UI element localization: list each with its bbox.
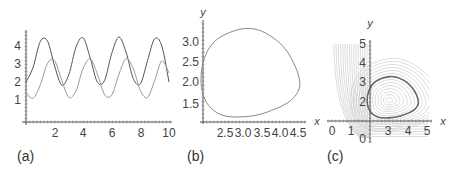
b-y-label: y [199, 6, 207, 18]
b-xtick: 4.5 [290, 126, 307, 140]
c-x-label-right: x [439, 115, 446, 127]
c-y-label: y [366, 17, 374, 29]
b-xtick: 2.5 [217, 126, 234, 140]
b-limit-cycle [201, 28, 300, 117]
a-ticks [25, 32, 171, 124]
c-xtick: 4 [405, 124, 412, 138]
figure: 2 4 6 8 10 1 2 3 4 (a) y 2.5 3.0 3.5 4.0… [0, 0, 460, 175]
b-xtick: 3.0 [235, 126, 252, 140]
a-ytick: 3 [14, 57, 21, 71]
a-xtick: 10 [162, 126, 176, 140]
panel-a: 2 4 6 8 10 1 2 3 4 (a) [14, 30, 176, 164]
a-series-x [26, 37, 169, 85]
a-xtick: 4 [80, 126, 87, 140]
panel-b-label: (b) [187, 148, 204, 164]
c-xtick: 5 [424, 124, 431, 138]
panel-c-label: (c) [327, 148, 343, 164]
a-xtick: 2 [52, 126, 59, 140]
a-xtick: 8 [138, 126, 145, 140]
c-ytick: 2 [359, 95, 366, 109]
b-ytick: 3.0 [182, 35, 199, 49]
c-xtick: 1 [348, 124, 355, 138]
c-xtick: 3 [385, 124, 392, 138]
a-ytick: 4 [14, 39, 21, 53]
b-xtick: 4.0 [272, 126, 289, 140]
c-ytick: 4 [359, 56, 366, 70]
c-ytick: 3 [359, 75, 366, 89]
panel-a-label: (a) [17, 148, 34, 164]
a-ytick: 2 [14, 75, 21, 89]
c-x-label-left: x [313, 115, 320, 127]
panel-c: y x x 0 1 3 4 5 0 2 3 4 5 (c) [313, 17, 446, 164]
b-xtick: 3.5 [254, 126, 271, 140]
c-ytick: 0 [359, 132, 366, 146]
c-xtick: 0 [329, 124, 336, 138]
a-xtick: 6 [109, 126, 116, 140]
b-ytick: 2.5 [182, 55, 199, 69]
a-series-y [26, 59, 169, 99]
c-ytick: 5 [359, 37, 366, 51]
a-ytick: 1 [14, 93, 21, 107]
b-ytick: 2.0 [182, 75, 199, 89]
panel-b: y 2.5 3.0 3.5 4.0 4.5 1.5 2.0 2.5 3.0 (b… [182, 6, 306, 164]
b-ytick: 1.5 [182, 97, 199, 111]
